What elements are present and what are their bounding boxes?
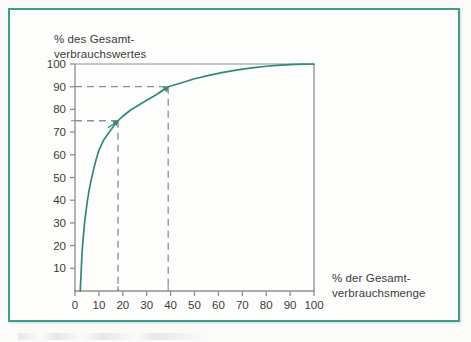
y-tick-label: 30 xyxy=(53,217,66,229)
reference-90-arrow-marker xyxy=(158,87,168,94)
y-tick-label: 80 xyxy=(53,103,66,115)
x-tick-label: 90 xyxy=(284,299,297,311)
y-tick-label: 20 xyxy=(53,240,66,252)
x-tick-label: 80 xyxy=(260,299,273,311)
x-tick-label: 10 xyxy=(93,299,106,311)
x-tick-label: 30 xyxy=(140,299,153,311)
y-tick-label: 60 xyxy=(53,149,66,161)
chart-frame: % des Gesamt- verbrauchswertes % der Ges… xyxy=(8,8,460,322)
lorenz-curve-line xyxy=(80,64,314,291)
y-tick-label: 70 xyxy=(53,126,66,138)
x-tick-label: 20 xyxy=(116,299,129,311)
x-tick-label: 0 xyxy=(72,299,78,311)
y-tick-label: 40 xyxy=(53,194,66,206)
y-tick-label: 90 xyxy=(53,81,66,93)
figure-container: % des Gesamt- verbrauchswertes % der Ges… xyxy=(0,0,471,342)
lorenz-curve-plot: 1020304050607080901000102030405060708090… xyxy=(10,10,462,324)
x-tick-label: 70 xyxy=(236,299,249,311)
x-tick-label: 40 xyxy=(164,299,177,311)
x-tick-label: 100 xyxy=(304,299,323,311)
page-edge-artifact xyxy=(18,333,208,340)
y-tick-label: 50 xyxy=(53,172,66,184)
y-tick-label: 100 xyxy=(47,58,66,70)
x-tick-label: 60 xyxy=(212,299,225,311)
y-tick-label: 10 xyxy=(53,262,66,274)
x-tick-label: 50 xyxy=(188,299,201,311)
